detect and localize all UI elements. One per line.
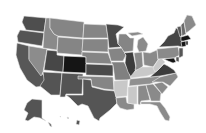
state-md[interactable] (164, 58, 176, 63)
state-ar[interactable] (114, 80, 128, 97)
state-ne[interactable] (82, 52, 112, 64)
state-ri[interactable] (186, 41, 188, 45)
state-me[interactable] (184, 15, 196, 33)
state-or[interactable] (17, 30, 44, 46)
state-nd[interactable] (83, 24, 108, 38)
state-hi[interactable] (48, 116, 80, 127)
state-wy[interactable] (57, 37, 83, 55)
state-ak[interactable] (24, 99, 46, 121)
state-wa[interactable] (22, 16, 46, 32)
state-fl[interactable] (141, 102, 170, 121)
us-choropleth-map (0, 0, 206, 133)
state-de[interactable] (176, 57, 179, 62)
state-nj[interactable] (179, 48, 183, 58)
state-ms[interactable] (128, 86, 137, 104)
state-ct[interactable] (181, 41, 186, 47)
state-sd[interactable] (82, 39, 108, 52)
state-ks[interactable] (86, 64, 113, 76)
state-az[interactable] (40, 72, 62, 95)
state-co[interactable] (63, 56, 86, 73)
